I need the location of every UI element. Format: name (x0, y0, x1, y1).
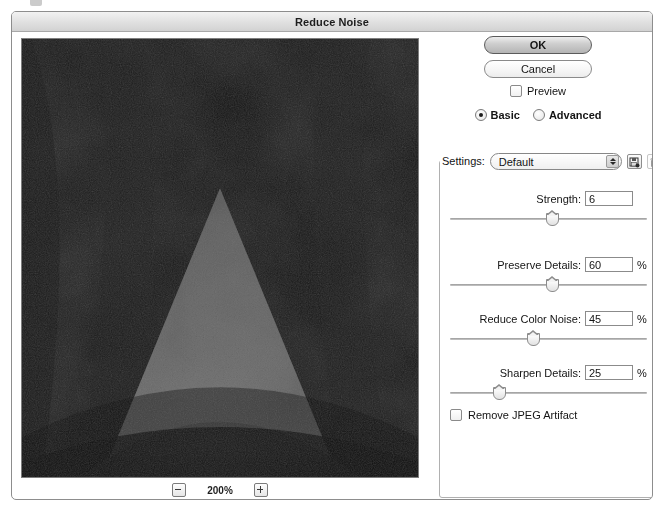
preserve-details-input[interactable]: 60 (585, 257, 633, 272)
sharpen-details-label: Sharpen Details: (500, 367, 581, 379)
settings-row: Settings: Default (440, 152, 653, 170)
sharpen-details-slider-track[interactable] (450, 392, 647, 394)
mode-radio-group: Basic Advanced (430, 109, 646, 121)
save-preset-icon[interactable] (627, 154, 642, 169)
preview-checkbox-label: Preview (527, 85, 566, 97)
zoom-level-label: 200% (203, 485, 237, 496)
remove-jpeg-artifact-checkbox[interactable] (450, 409, 462, 421)
preview-checkbox-row[interactable]: Preview (430, 85, 646, 97)
chevron-updown-icon[interactable] (606, 155, 619, 168)
preserve-details-field-row: Preserve Details: 60 % (440, 257, 653, 272)
slider-reduce-color-noise: Reduce Color Noise: 45 % (440, 311, 653, 346)
trash-glyph (648, 156, 653, 169)
page-title: Reduce Noise (295, 16, 369, 28)
strength-slider-thumb[interactable] (546, 213, 559, 226)
settings-groupbox: Strength: 6 Preserve Details: 60 % (439, 160, 653, 498)
preserve-details-unit: % (637, 259, 646, 271)
sharpen-details-slider[interactable] (450, 386, 647, 400)
trash-icon[interactable] (647, 154, 653, 169)
radio-basic-indicator[interactable] (475, 109, 487, 121)
strength-slider[interactable] (450, 212, 647, 226)
reduce-color-noise-unit: % (637, 313, 646, 325)
dialog-titlebar: Reduce Noise (12, 12, 652, 32)
radio-advanced-indicator[interactable] (533, 109, 545, 121)
strength-field-row: Strength: 6 (440, 191, 653, 206)
reduce-noise-dialog: Reduce Noise (11, 11, 653, 500)
save-preset-glyph (628, 156, 641, 169)
zoom-out-button[interactable] (172, 483, 186, 497)
reduce-color-noise-slider-thumb[interactable] (527, 333, 540, 346)
strength-input[interactable]: 6 (585, 191, 633, 206)
ok-button[interactable]: OK (484, 36, 592, 54)
preview-pane[interactable] (21, 38, 419, 478)
sharpen-details-field-row: Sharpen Details: 25 % (440, 365, 653, 380)
settings-select[interactable]: Default (490, 153, 622, 170)
reduce-color-noise-slider-track[interactable] (450, 338, 647, 340)
radio-basic-label: Basic (491, 109, 520, 121)
sharpen-details-unit: % (637, 367, 646, 379)
settings-label: Settings: (442, 155, 485, 167)
radio-advanced-label: Advanced (549, 109, 602, 121)
preserve-details-slider-thumb[interactable] (546, 279, 559, 292)
cancel-button[interactable]: Cancel (484, 60, 592, 78)
preview-checkbox[interactable] (510, 85, 522, 97)
reduce-color-noise-input[interactable]: 45 (585, 311, 633, 326)
reduce-color-noise-field-row: Reduce Color Noise: 45 % (440, 311, 653, 326)
reduce-color-noise-label: Reduce Color Noise: (480, 313, 582, 325)
radio-advanced[interactable]: Advanced (533, 109, 602, 121)
strength-label: Strength: (536, 193, 581, 205)
sharpen-details-slider-thumb[interactable] (493, 387, 506, 400)
sharpen-details-input[interactable]: 25 (585, 365, 633, 380)
radio-basic[interactable]: Basic (475, 109, 520, 121)
zoom-controls: 200% (21, 482, 419, 498)
controls-column: OK Cancel Preview Basic Advanced (430, 36, 646, 121)
slider-strength: Strength: 6 (440, 191, 653, 226)
settings-select-value: Default (499, 154, 534, 170)
remove-jpeg-artifact-label: Remove JPEG Artifact (468, 409, 577, 421)
remove-jpeg-artifact-row[interactable]: Remove JPEG Artifact (450, 409, 577, 421)
preview-image[interactable] (22, 39, 418, 477)
reduce-color-noise-slider[interactable] (450, 332, 647, 346)
preview-noise-overlay (22, 39, 418, 477)
preserve-details-label: Preserve Details: (497, 259, 581, 271)
scan-artifact (30, 0, 42, 6)
slider-preserve-details: Preserve Details: 60 % (440, 257, 653, 292)
slider-sharpen-details: Sharpen Details: 25 % (440, 365, 653, 400)
preserve-details-slider[interactable] (450, 278, 647, 292)
screenshot-root: Reduce Noise (0, 0, 665, 513)
zoom-in-button[interactable] (254, 483, 268, 497)
